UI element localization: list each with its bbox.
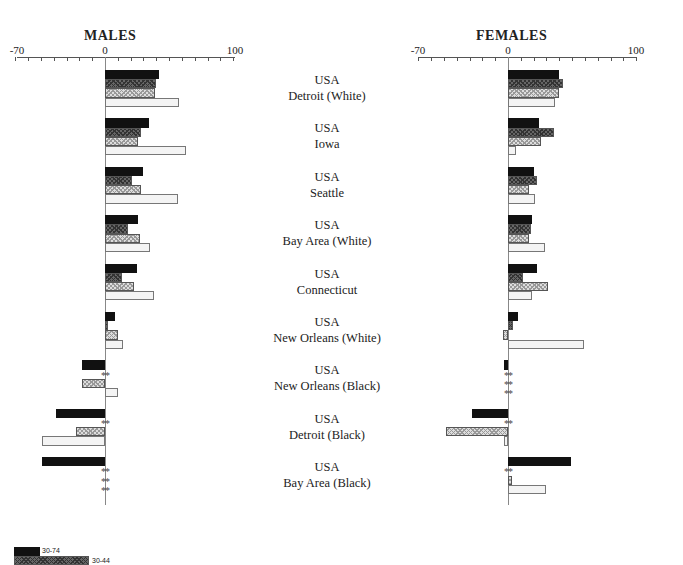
females-bar (508, 273, 523, 282)
category-label-line: Iowa (247, 136, 407, 152)
males-axis-tick (233, 57, 234, 61)
males-bar (105, 137, 138, 146)
females-bar (508, 137, 541, 146)
females-bar (508, 234, 529, 243)
males-bar (82, 379, 105, 388)
females-axis-tick (431, 57, 432, 61)
females-axis-tick (559, 57, 560, 61)
males-bar (105, 388, 118, 397)
males-bar (105, 330, 118, 339)
category-label: USABay Area (Black) (247, 459, 407, 491)
males-bar (42, 457, 105, 466)
males-bar (105, 98, 179, 107)
females-axis-tick (572, 57, 573, 61)
males-bar (105, 215, 138, 224)
category-label-line: USA (247, 217, 407, 233)
category-label-line: USA (247, 459, 407, 475)
category-label-line: New Orleans (Black) (247, 378, 407, 394)
males-bar (105, 128, 141, 137)
females-bar (508, 70, 559, 79)
females-bar (508, 243, 545, 252)
legend-label-30-44: 30-44 (92, 557, 110, 564)
males-bar (105, 264, 137, 273)
females-axis-tick (611, 57, 612, 61)
females-bar (508, 264, 537, 273)
males-bar (105, 224, 128, 233)
males-bar (105, 167, 143, 176)
missing-value-marker: ** (504, 389, 512, 398)
females-bar (504, 436, 508, 445)
females-panel-title: FEMALES (476, 28, 547, 44)
males-axis-tick (54, 57, 55, 61)
males-tick-label-max: 100 (227, 44, 244, 56)
females-bar (508, 485, 546, 494)
legend-swatch-30-44 (14, 556, 89, 565)
category-label: USANew Orleans (Black) (247, 362, 407, 394)
females-axis-tick (636, 57, 637, 61)
females-bar (503, 330, 508, 339)
females-bar (508, 194, 535, 203)
females-bar (508, 98, 555, 107)
males-bar (56, 409, 105, 418)
category-label-line: New Orleans (White) (247, 330, 407, 346)
category-label: USANew Orleans (White) (247, 314, 407, 346)
category-label-line: Detroit (White) (247, 88, 407, 104)
females-bar (508, 340, 584, 349)
females-axis-tick (598, 57, 599, 61)
males-bar (105, 234, 140, 243)
females-axis-tick (470, 57, 471, 61)
category-label: USASeattle (247, 169, 407, 201)
category-label-line: Connecticut (247, 282, 407, 298)
males-axis-tick (79, 57, 80, 61)
males-bar (105, 194, 178, 203)
females-axis-tick (457, 57, 458, 61)
females-axis-tick (521, 57, 522, 61)
males-bar (105, 146, 186, 155)
category-label: USAIowa (247, 120, 407, 152)
category-label-line: Seattle (247, 185, 407, 201)
category-label-line: USA (247, 266, 407, 282)
females-axis-tick (495, 57, 496, 61)
females-bar (508, 146, 516, 155)
females-axis-tick (444, 57, 445, 61)
females-bar (446, 427, 508, 436)
males-axis-tick (195, 57, 196, 61)
males-tick-label-min: -70 (10, 44, 25, 56)
males-tick-label-zero: 0 (102, 44, 108, 56)
males-bar (105, 282, 134, 291)
category-label-line: USA (247, 169, 407, 185)
males-bar (42, 436, 105, 445)
males-axis-tick (169, 57, 170, 61)
females-bar (508, 457, 571, 466)
females-bar (508, 118, 539, 127)
legend-label-30-74: 30-74 (42, 547, 60, 554)
females-axis-tick (585, 57, 586, 61)
males-axis-tick (182, 57, 183, 61)
females-axis-tick (482, 57, 483, 61)
males-axis-tick (92, 57, 93, 61)
males-bar (105, 243, 150, 252)
category-label-line: USA (247, 314, 407, 330)
males-bar (105, 291, 154, 300)
category-label-line: USA (247, 120, 407, 136)
missing-value-marker: ** (101, 486, 109, 495)
males-axis-tick (28, 57, 29, 61)
females-axis-tick (534, 57, 535, 61)
females-tick-label-zero: 0 (505, 44, 511, 56)
females-axis-tick (418, 57, 419, 61)
males-axis-tick (41, 57, 42, 61)
females-bar (508, 128, 554, 137)
males-bar (105, 118, 149, 127)
males-bar (105, 176, 132, 185)
males-bar (105, 273, 122, 282)
males-axis-tick (156, 57, 157, 61)
males-bar (82, 360, 105, 369)
males-bar (105, 312, 115, 321)
females-bar (508, 185, 529, 194)
females-bar (508, 291, 532, 300)
males-panel-title: MALES (84, 28, 136, 44)
females-bar (508, 321, 513, 330)
females-bar (508, 88, 559, 97)
category-label-line: Bay Area (White) (247, 233, 407, 249)
males-bar (76, 427, 105, 436)
